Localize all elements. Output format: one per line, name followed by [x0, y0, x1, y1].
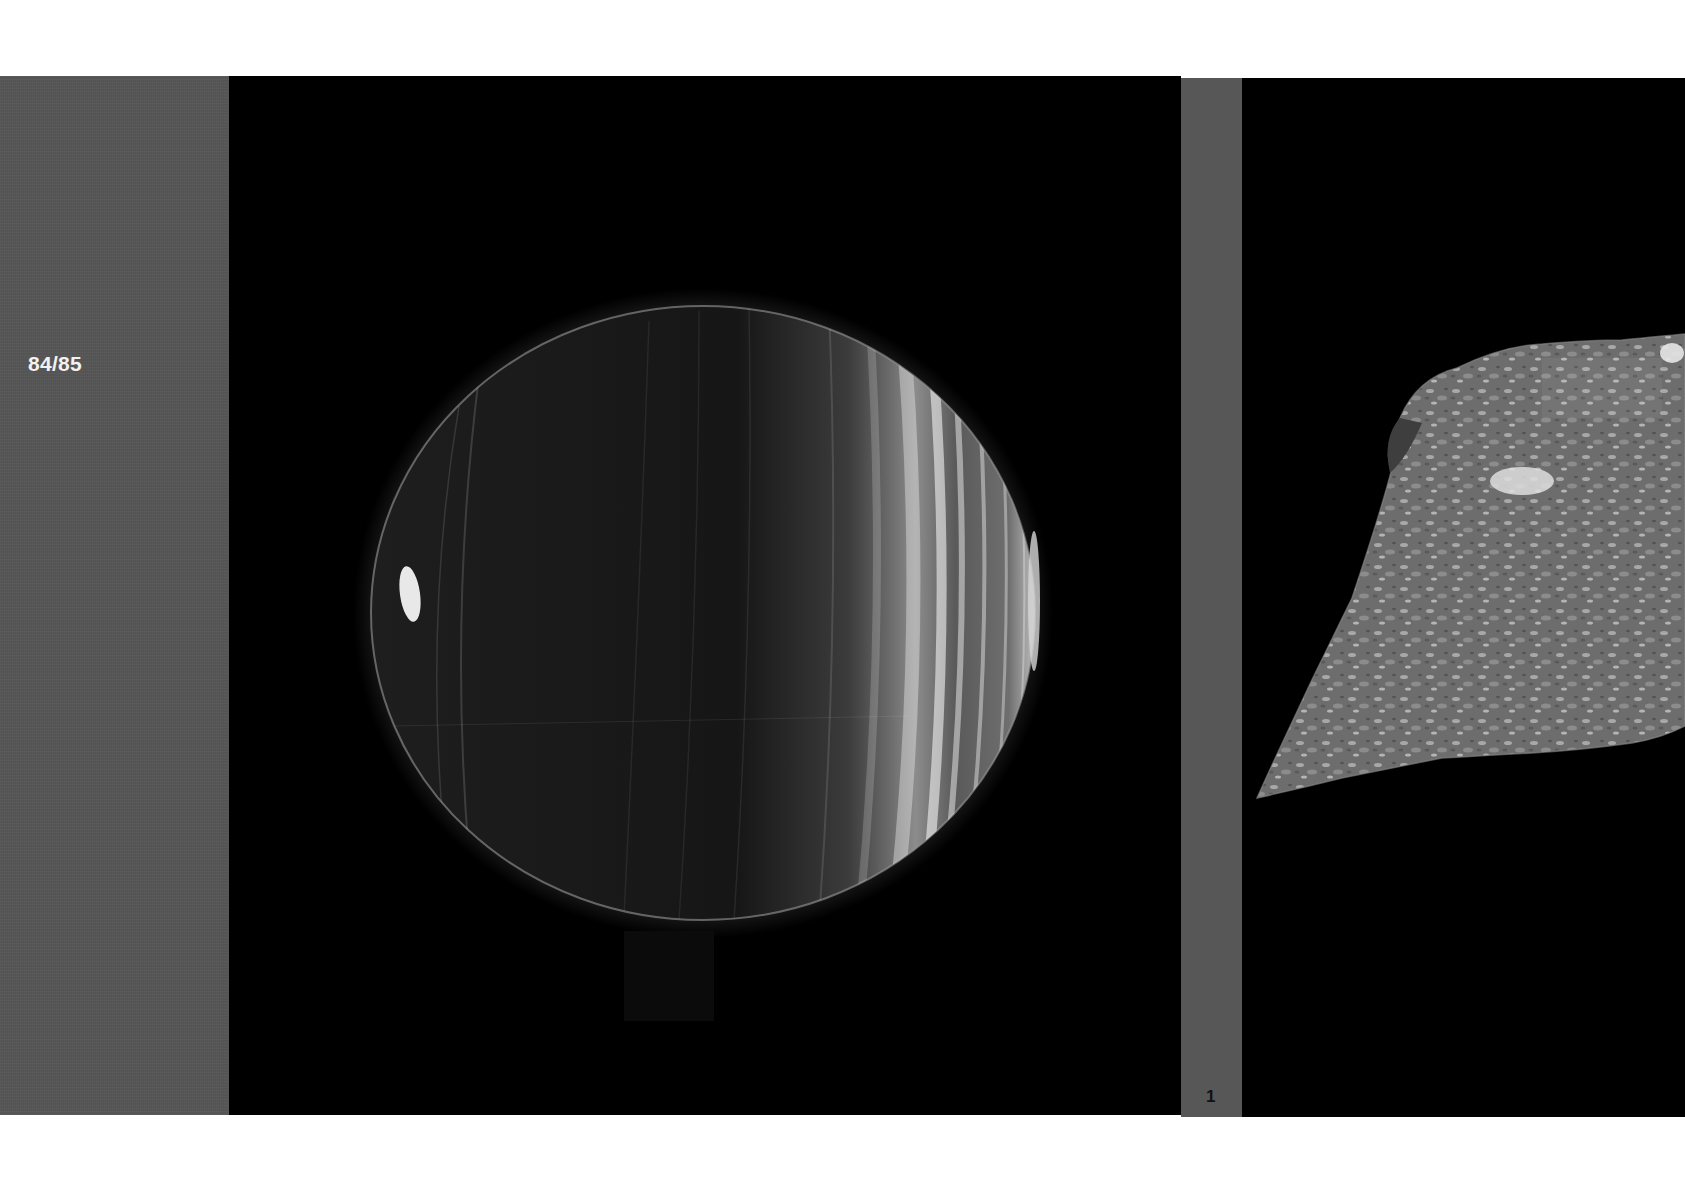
- page-number: 84/85: [28, 352, 82, 376]
- planet-image: [229, 76, 1181, 1115]
- center-gutter: 1: [1181, 78, 1242, 1117]
- planet-image-panel: [229, 76, 1181, 1115]
- left-margin-panel: 84/85: [0, 76, 229, 1115]
- surface-image: [1242, 78, 1685, 1117]
- figure-number: 1: [1206, 1087, 1215, 1107]
- surface-image-panel: [1242, 78, 1685, 1117]
- book-spread: 84/85: [0, 76, 1685, 1115]
